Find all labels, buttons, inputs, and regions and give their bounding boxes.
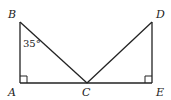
right-angle-mark-a [20,76,27,83]
label-c: C [82,86,91,99]
label-d: D [155,8,165,21]
segment-bc [20,22,87,83]
geometry-diagram: B A C D E 35° [0,0,171,100]
label-b: B [7,8,16,21]
angle-label-b: 35° [23,38,41,49]
segment-cd [87,22,152,83]
label-e: E [155,86,164,99]
label-a: A [7,86,16,99]
right-angle-mark-e [145,76,152,83]
